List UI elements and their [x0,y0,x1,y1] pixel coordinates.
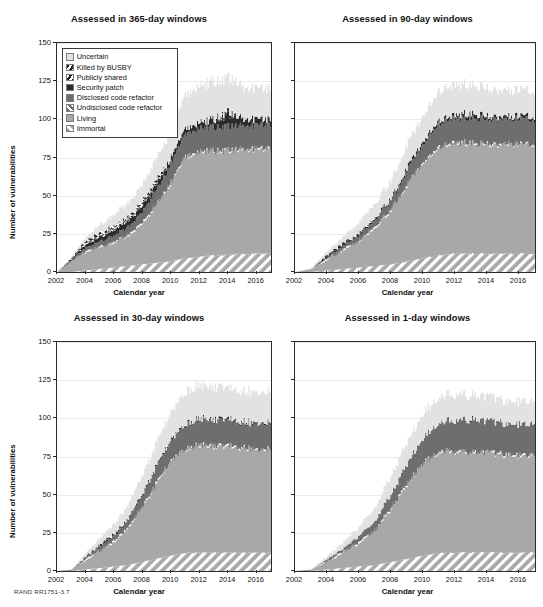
x-tick-label: 2004 [318,276,334,285]
x-tick-label: 2014 [219,276,235,285]
x-tick-label: 2014 [219,575,235,584]
legend-label: Immortal [77,125,106,132]
y-tick-label: 100 [38,114,51,123]
x-tick-label: 2010 [414,276,430,285]
x-tick-label: 2006 [350,575,366,584]
x-tick-label: 2004 [318,575,334,584]
x-axis-title-1: Calendar year [272,587,543,596]
x-tick-label: 2016 [247,575,263,584]
x-tick-mark [390,570,391,573]
y-tick-mark [53,42,56,43]
legend-item: Undisclosed code refactor [66,103,173,113]
y-tick-mark [53,118,56,119]
y-tick-mark [291,456,294,457]
y-tick-label: 75 [43,152,51,161]
x-tick-mark [422,271,423,274]
x-tick-label: 2002 [286,276,302,285]
legend-swatch-icon [66,53,74,61]
y-tick-mark [291,80,294,81]
x-tick-label: 2012 [190,276,206,285]
legend-swatch-icon [66,94,74,102]
x-tick-label: 2004 [76,575,92,584]
x-tick-mark [199,570,200,573]
x-tick-mark [326,570,327,573]
legend-swatch-icon [66,104,74,112]
y-tick-mark [53,532,56,533]
y-tick-mark [53,195,56,196]
y-tick-mark [291,233,294,234]
y-tick-mark [291,42,294,43]
x-tick-mark [422,570,423,573]
x-tick-mark [390,271,391,274]
x-tick-mark [113,271,114,274]
legend-item: Immortal [66,123,173,133]
chart-panel-30-day: Assessed in 30-day windows Number of vul… [0,313,278,603]
legend-swatch-icon [66,114,74,122]
panel-title-365: Assessed in 365-day windows [0,14,278,24]
y-tick-label: 125 [38,76,51,85]
x-tick-mark [142,570,143,573]
x-tick-label: 2004 [76,276,92,285]
legend-item: Living [66,113,173,123]
x-tick-label: 2010 [162,575,178,584]
x-tick-label: 2008 [382,575,398,584]
x-tick-label: 2012 [446,575,462,584]
y-tick-mark [291,118,294,119]
figure-source-note: RAND RR1751-3.7 [14,588,70,595]
panel-title-30: Assessed in 30-day windows [0,313,278,323]
legend-item: Publicly shared [66,72,173,82]
x-tick-mark [358,271,359,274]
x-tick-mark [454,271,455,274]
y-tick-label: 25 [43,228,51,237]
y-tick-label: 100 [38,413,51,422]
x-tick-mark [113,570,114,573]
y-tick-mark [291,157,294,158]
y-tick-mark [53,494,56,495]
figure-root: Assessed in 365-day windows Number of vu… [0,0,543,607]
x-tick-label: 2016 [247,276,263,285]
x-tick-mark [199,271,200,274]
y-tick-mark [53,417,56,418]
y-tick-mark [53,456,56,457]
x-tick-mark [486,271,487,274]
x-tick-mark [142,271,143,274]
x-tick-label: 2008 [382,276,398,285]
legend-swatch-icon [66,64,74,72]
legend-label: Killed by BUSBY [77,64,132,71]
chart-panel-1-day: Assessed in 1-day windows Calendar year … [272,313,543,603]
panel-title-1: Assessed in 1-day windows [272,313,543,323]
legend-label: Security patch [77,84,124,91]
plot-area-1 [294,341,536,572]
x-tick-mark [85,271,86,274]
y-tick-label: 150 [38,38,51,47]
x-tick-label: 2014 [478,575,494,584]
x-tick-label: 2002 [48,575,64,584]
y-axis-title-365: Number of vulnerabilities [8,145,17,239]
x-tick-mark [518,271,519,274]
legend-label: Publicly shared [77,74,127,81]
y-tick-mark [53,233,56,234]
y-tick-mark [53,80,56,81]
y-tick-label: 25 [43,527,51,536]
x-tick-label: 2012 [446,276,462,285]
chart-legend: UncertainKilled by BUSBYPublicly sharedS… [62,48,178,138]
x-tick-mark [56,570,57,573]
legend-label: Undisclosed code refactor [77,104,162,111]
stacked-area-series [57,342,271,571]
x-axis-title-365: Calendar year [0,288,278,297]
x-tick-mark [170,271,171,274]
x-tick-label: 2010 [414,575,430,584]
x-tick-label: 2006 [350,276,366,285]
legend-item: Uncertain [66,52,173,62]
stacked-area-series [295,43,535,272]
chart-panel-90-day: Assessed in 90-day windows Calendar year… [272,14,543,304]
x-tick-mark [56,271,57,274]
x-tick-label: 2006 [105,575,121,584]
legend-label: Living [77,115,96,122]
x-tick-label: 2014 [478,276,494,285]
legend-swatch-icon [66,84,74,92]
x-tick-mark [486,570,487,573]
y-tick-mark [291,494,294,495]
y-tick-label: 150 [38,337,51,346]
stacked-area-series [295,342,535,571]
